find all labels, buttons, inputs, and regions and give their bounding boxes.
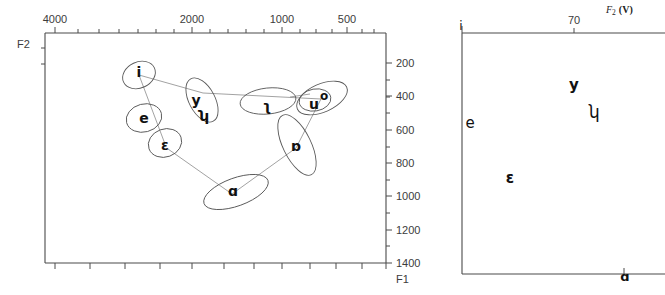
right-plot-frame xyxy=(462,33,665,274)
left-vowel-symbol-o: o xyxy=(320,89,328,103)
right-plot-panel: 70 F2(V) i y ʮ e ɛ ɑ xyxy=(440,0,665,295)
left-ytick-label-1000: 1000 xyxy=(396,190,420,202)
right-vowel-symbol-i: i xyxy=(459,19,462,33)
left-xtick-label-1000: 1000 xyxy=(270,13,294,25)
left-plot-frame xyxy=(45,33,386,263)
left-y-axis-ticks xyxy=(386,63,392,263)
left-plot-panel: 4000 2000 1000 500 200 400 600 800 1000 … xyxy=(0,0,440,295)
left-vowel-symbol-hooked-u: ʮ xyxy=(197,108,208,124)
left-vowel-symbol-u: u xyxy=(309,96,319,112)
left-bottom-axis-ticks xyxy=(55,263,386,269)
left-x-axis-minor-ticks xyxy=(78,29,374,33)
right-axis-name-f2v-paren: (V) xyxy=(619,4,633,16)
left-ytick-label-200: 200 xyxy=(396,57,414,69)
left-vowel-symbol-open-e: ɛ xyxy=(161,137,169,153)
right-corner-ticks xyxy=(462,26,624,274)
left-xtick-label-500: 500 xyxy=(338,13,356,25)
left-vowel-symbol-y: y xyxy=(191,92,200,108)
left-vowel-symbol-turned-script-a: ɒ xyxy=(291,138,301,154)
right-xtick-label-70: 70 xyxy=(568,14,580,26)
right-plot-svg: 70 F2(V) i y ʮ e ɛ ɑ xyxy=(440,0,665,295)
right-vowel-symbol-e: e xyxy=(465,114,474,132)
left-axis-name-f2: F2 xyxy=(17,38,30,50)
left-ytick-label-600: 600 xyxy=(396,124,414,136)
left-ytick-label-400: 400 xyxy=(396,90,414,102)
right-axis-name-f2v-subscript: 2 xyxy=(612,8,616,17)
right-vowel-symbol-hooked-u: ʮ xyxy=(588,102,599,122)
left-vowel-symbol-backhook: ʅ xyxy=(263,98,271,114)
left-ytick-label-1400: 1400 xyxy=(396,257,420,269)
left-ytick-label-1200: 1200 xyxy=(396,224,420,236)
right-axis-name-f2v: F2(V) xyxy=(605,4,633,17)
left-vowel-symbol-script-a: ɑ xyxy=(228,183,238,199)
left-vowel-connectors xyxy=(139,75,321,194)
left-xtick-label-2000: 2000 xyxy=(180,13,204,25)
left-axis-name-f1: F1 xyxy=(396,273,409,285)
left-y-axis-left-ticks xyxy=(41,48,45,64)
left-vowel-symbol-i: i xyxy=(137,64,142,80)
right-vowel-symbol-script-a: ɑ xyxy=(620,269,629,284)
left-ytick-label-800: 800 xyxy=(396,157,414,169)
left-plot-svg: 4000 2000 1000 500 200 400 600 800 1000 … xyxy=(0,0,440,295)
left-vowel-symbol-e: e xyxy=(139,110,149,126)
right-vowel-symbol-y: y xyxy=(569,76,579,94)
left-xtick-label-4000: 4000 xyxy=(43,13,67,25)
right-vowel-symbol-open-e: ɛ xyxy=(506,169,514,187)
